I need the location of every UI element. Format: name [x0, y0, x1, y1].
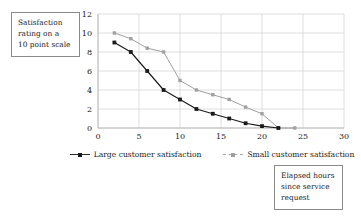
series-data-point — [244, 121, 248, 125]
y-axis-tick-label: 10 — [82, 29, 92, 38]
series-data-point — [260, 124, 264, 128]
legend-label-large: Large customer satisfaction — [94, 150, 202, 160]
legend-marker-small-icon — [223, 151, 243, 159]
series-data-point — [129, 37, 132, 40]
series-data-point — [129, 50, 133, 54]
y-axis-tick-label: 2 — [87, 105, 92, 114]
y-axis-tick-label: 4 — [87, 86, 92, 95]
y-axis-tick-labels: 024681012 — [82, 10, 92, 133]
grid-lines — [98, 14, 344, 128]
x-axis-tick-label: 25 — [298, 132, 308, 141]
series-data-point — [227, 117, 231, 121]
series-data-point — [162, 88, 166, 92]
series-data-point — [145, 69, 149, 73]
series-data-point — [195, 107, 199, 111]
series-data-point — [211, 93, 214, 96]
x-axis-annotation-line-3: request — [281, 192, 337, 203]
series-data-point — [146, 47, 149, 50]
x-axis-tick-label: 30 — [339, 132, 349, 141]
series-line — [114, 33, 294, 128]
series-data-point — [277, 126, 281, 130]
series-data-point — [113, 31, 116, 34]
y-axis-annotation-line-1: Satisfaction — [18, 17, 74, 28]
chart-figure: 024681012051015202530 Satisfaction ratin… — [0, 0, 361, 218]
series-data-point — [162, 50, 165, 53]
y-axis-annotation-line-3: 10 point scale — [18, 39, 74, 50]
x-axis-tick-label: 5 — [136, 132, 141, 141]
series-data-point — [195, 88, 198, 91]
x-axis-annotation-line-2: since service — [281, 181, 337, 192]
series-small — [113, 31, 297, 129]
legend-item-large-customer-satisfaction[interactable]: Large customer satisfaction — [70, 150, 202, 160]
y-axis-annotation-line-2: rating on a — [18, 28, 74, 39]
x-axis-annotation-box: Elapsed hours since service request — [274, 165, 343, 210]
series-data-point — [178, 98, 182, 102]
x-axis-tick-label: 0 — [95, 132, 100, 141]
series-data-point — [293, 126, 296, 129]
y-axis-tick-label: 12 — [82, 10, 92, 19]
legend-item-small-customer-satisfaction[interactable]: Small customer satisfaction — [223, 150, 354, 160]
chart-legend: Large customer satisfaction Small custom… — [74, 147, 350, 162]
x-axis-annotation-line-1: Elapsed hours — [281, 170, 337, 181]
y-axis-tick-label: 6 — [87, 67, 92, 76]
series-large — [113, 41, 281, 130]
series-data-point — [113, 41, 117, 45]
y-axis-tick-label: 8 — [87, 48, 92, 57]
y-axis-tick-label: 0 — [87, 124, 92, 133]
x-axis-tick-label: 10 — [175, 132, 185, 141]
series-data-point — [260, 112, 263, 115]
series-data-point — [178, 79, 181, 82]
y-axis-annotation-box: Satisfaction rating on a 10 point scale — [11, 12, 80, 57]
x-axis-tick-labels: 051015202530 — [95, 132, 349, 141]
legend-label-small: Small customer satisfaction — [247, 150, 354, 160]
series-data-point — [244, 105, 247, 108]
legend-marker-large-icon — [70, 151, 90, 159]
series-data-point — [211, 112, 215, 116]
x-axis-tick-label: 20 — [257, 132, 267, 141]
series-data-point — [228, 98, 231, 101]
x-axis-tick-label: 15 — [216, 132, 226, 141]
